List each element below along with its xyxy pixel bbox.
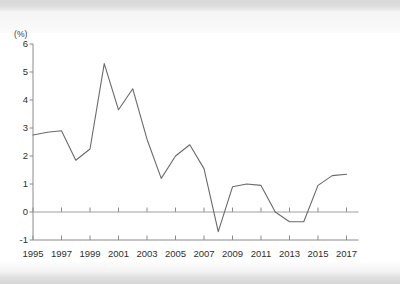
y-tick-label: -1: [14, 234, 28, 245]
x-tick-label: 2011: [246, 248, 276, 259]
chart-tick-marks: [30, 44, 347, 240]
y-tick-label: 6: [14, 38, 28, 49]
x-tick-label: 2015: [303, 248, 333, 259]
y-tick-label: 5: [14, 66, 28, 77]
chart-canvas: [0, 0, 400, 284]
y-tick-label: 2: [14, 150, 28, 161]
x-tick-label: 2005: [161, 248, 191, 259]
x-tick-label: 1997: [47, 248, 77, 259]
x-tick-label: 2003: [132, 248, 162, 259]
y-tick-label: 4: [14, 94, 28, 105]
x-tick-label: 2001: [104, 248, 134, 259]
x-tick-label: 1999: [75, 248, 105, 259]
chart-axes: [33, 44, 359, 240]
y-tick-label: 0: [14, 206, 28, 217]
x-tick-label: 2009: [218, 248, 248, 259]
data-series-line: [33, 64, 347, 232]
x-tick-label: 2017: [332, 248, 362, 259]
y-tick-label: 1: [14, 178, 28, 189]
x-tick-label: 2013: [275, 248, 305, 259]
y-tick-label: 3: [14, 122, 28, 133]
x-tick-label: 2007: [189, 248, 219, 259]
line-chart: (%) 6543210-1 19951997199920012003200520…: [0, 0, 400, 284]
x-tick-label: 1995: [18, 248, 48, 259]
